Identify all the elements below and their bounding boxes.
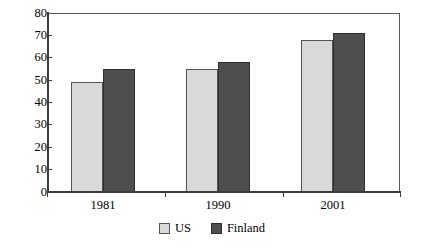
x-tick-label-2001: 2001 bbox=[298, 198, 368, 213]
x-tick-mark-0 bbox=[47, 193, 48, 197]
x-axis-line bbox=[47, 191, 401, 193]
legend-item-finland[interactable]: Finland bbox=[211, 222, 265, 235]
bar-us-1981[interactable] bbox=[71, 82, 103, 192]
legend-item-us[interactable]: US bbox=[159, 222, 191, 235]
legend-label-finland: Finland bbox=[227, 222, 265, 235]
bar-finland-1990[interactable] bbox=[218, 62, 250, 192]
bar-finland-2001[interactable] bbox=[333, 33, 365, 192]
legend-swatch-finland-icon bbox=[211, 223, 222, 234]
bar-us-1990[interactable] bbox=[186, 69, 218, 192]
x-tick-mark-2 bbox=[283, 193, 284, 197]
bar-chart: 80 70 60 50 40 30 20 10 0 1981 1990 2001 bbox=[0, 0, 424, 249]
x-tick-label-1981: 1981 bbox=[68, 198, 138, 213]
x-tick-mark-3 bbox=[400, 193, 401, 197]
legend-label-us: US bbox=[175, 222, 191, 235]
chart-legend: US Finland bbox=[0, 222, 424, 235]
bar-finland-1981[interactable] bbox=[103, 69, 135, 192]
legend-swatch-us-icon bbox=[159, 223, 170, 234]
bar-us-2001[interactable] bbox=[301, 40, 333, 192]
x-tick-label-1990: 1990 bbox=[183, 198, 253, 213]
x-tick-mark-1 bbox=[165, 193, 166, 197]
